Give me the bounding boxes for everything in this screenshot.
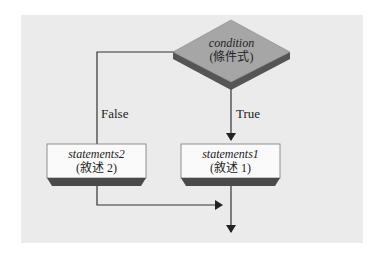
false-label: False (101, 106, 128, 122)
statements2-text: statements2 (47, 147, 146, 161)
statements1-text: statements1 (181, 147, 280, 161)
false-connector (97, 52, 197, 144)
statements1-zh-text: (敘述 1) (181, 161, 280, 175)
condition-text: condition (173, 36, 290, 50)
statements1-label: statements1 (敘述 1) (181, 147, 280, 175)
statements2-zh-text: (敘述 2) (47, 161, 146, 175)
merge-arrow (97, 186, 222, 205)
true-label: True (236, 106, 260, 122)
decision-label: condition (條件式) (173, 36, 290, 64)
statements2-label: statements2 (敘述 2) (47, 147, 146, 175)
condition-zh-text: (條件式) (173, 50, 290, 64)
